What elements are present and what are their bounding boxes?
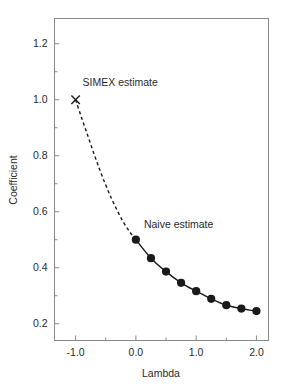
chart-figure: -1.00.01.02.0 0.20.40.60.81.01.2 Lambda … <box>0 0 284 387</box>
data-point-marker <box>192 287 200 295</box>
y-tick-label-2: 0.6 <box>33 205 48 217</box>
y-tick-label-5: 1.2 <box>33 37 48 49</box>
data-point-marker <box>252 307 260 315</box>
x-axis-title: Lambda <box>142 367 180 379</box>
y-tick-label-1: 0.4 <box>33 261 48 273</box>
data-point-marker <box>222 301 230 309</box>
y-tick-label-0: 0.2 <box>33 317 48 329</box>
x-tick-label-2: 1.0 <box>189 346 204 358</box>
x-tick-label-3: 2.0 <box>249 346 264 358</box>
x-tick-label-0: -1.0 <box>67 346 85 358</box>
data-point-marker <box>207 295 215 303</box>
data-point-marker <box>177 279 185 287</box>
data-point-marker <box>237 304 245 312</box>
simex-extrapolation-chart: -1.00.01.02.0 0.20.40.60.81.01.2 Lambda … <box>0 0 284 387</box>
data-point-marker <box>147 254 155 262</box>
y-axis-title: Coefficient <box>7 155 19 205</box>
data-point-marker <box>162 268 170 276</box>
x-tick-label-1: 0.0 <box>129 346 144 358</box>
y-tick-label-3: 0.8 <box>33 149 48 161</box>
data-point-marker <box>132 236 140 244</box>
naive-estimate-annotation: Naive estimate <box>144 218 214 230</box>
simex-estimate-annotation: SIMEX estimate <box>83 76 158 88</box>
y-tick-label-4: 1.0 <box>33 93 48 105</box>
